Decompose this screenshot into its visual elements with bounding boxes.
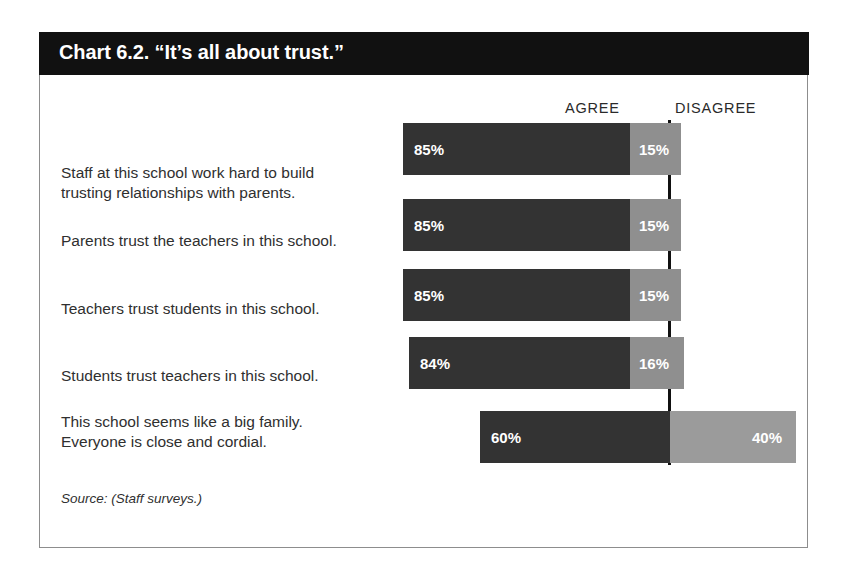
chart-rows: Staff at this school work hard to build … bbox=[40, 33, 807, 547]
row-label: This school seems like a big family. Eve… bbox=[61, 412, 391, 452]
stacked-bar: 85%15% bbox=[403, 269, 681, 321]
bar-value-agree: 84% bbox=[420, 355, 450, 372]
bar-value-disagree: 16% bbox=[639, 355, 669, 372]
bar-value-agree: 85% bbox=[414, 287, 444, 304]
source-note: Source: (Staff surveys.) bbox=[61, 491, 202, 506]
bar-value-agree: 60% bbox=[491, 429, 521, 446]
bar-segment-agree: 85% bbox=[403, 199, 630, 251]
bar-segment-disagree: 40% bbox=[670, 411, 796, 463]
stacked-bar: 85%15% bbox=[403, 123, 681, 175]
bar-segment-disagree: 15% bbox=[630, 269, 681, 321]
row-label: Parents trust the teachers in this schoo… bbox=[61, 231, 391, 251]
bar-value-disagree: 15% bbox=[639, 287, 669, 304]
bar-value-disagree: 15% bbox=[639, 141, 669, 158]
bar-segment-disagree: 16% bbox=[630, 337, 684, 389]
bar-value-agree: 85% bbox=[414, 217, 444, 234]
stacked-bar: 84%16% bbox=[409, 337, 684, 389]
row-label: Students trust teachers in this school. bbox=[61, 366, 391, 386]
bar-segment-agree: 85% bbox=[403, 269, 630, 321]
bar-value-agree: 85% bbox=[414, 141, 444, 158]
page-root: Chart 6.2. “It’s all about trust.” AGREE… bbox=[0, 0, 847, 584]
bar-segment-disagree: 15% bbox=[630, 199, 681, 251]
bar-segment-agree: 85% bbox=[403, 123, 630, 175]
bar-value-disagree: 15% bbox=[639, 217, 669, 234]
row-label: Teachers trust students in this school. bbox=[61, 299, 391, 319]
chart-card: Chart 6.2. “It’s all about trust.” AGREE… bbox=[39, 32, 808, 548]
row-label: Staff at this school work hard to build … bbox=[61, 163, 391, 203]
stacked-bar: 85%15% bbox=[403, 199, 681, 251]
bar-segment-agree: 60% bbox=[480, 411, 670, 463]
stacked-bar: 60%40% bbox=[480, 411, 796, 463]
bar-segment-disagree: 15% bbox=[630, 123, 681, 175]
bar-segment-agree: 84% bbox=[409, 337, 630, 389]
bar-value-disagree: 40% bbox=[752, 429, 782, 446]
